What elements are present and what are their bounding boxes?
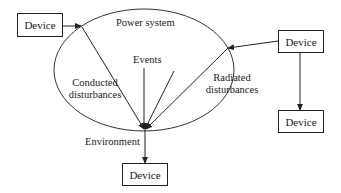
events-label: Events <box>133 54 162 66</box>
conducted-disturbances-label: Conducted disturbances <box>62 77 128 101</box>
environment-label: Environment <box>85 136 140 148</box>
device-top-right: Device <box>278 30 324 53</box>
device-top-left: Device <box>17 13 63 37</box>
radiated-line1: Radiated <box>199 72 265 84</box>
conducted-line2: disturbances <box>62 89 128 101</box>
radiated-disturbances-label: Radiated disturbances <box>199 72 265 96</box>
conducted-line1: Conducted <box>62 77 128 89</box>
events-line-diagonal <box>145 71 174 129</box>
device-bottom-right: Device <box>278 110 324 133</box>
arrow-device-to-system-right <box>228 41 278 48</box>
radiated-line2: disturbances <box>199 84 265 96</box>
device-bottom-center: Device <box>122 163 168 186</box>
power-system-label: Power system <box>116 17 175 29</box>
